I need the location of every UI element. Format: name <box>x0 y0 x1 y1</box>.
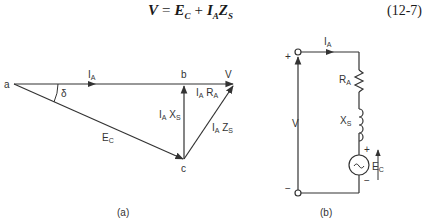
terminal-negative <box>295 190 301 196</box>
equivalent-circuit: IA RA XS EC V + − + − (b) <box>285 36 384 218</box>
diagram-canvas: a b c V δ IA EC IA XS IA RA IA ZS (a) <box>0 0 432 222</box>
terminal-plus-label: + <box>285 51 291 62</box>
point-c-label: c <box>181 163 186 174</box>
iara-label: IA RA <box>196 87 218 99</box>
resistor-label: RA <box>339 74 351 86</box>
point-a-label: a <box>4 79 10 90</box>
reactance-label: XS <box>340 115 352 127</box>
voltage-label: V <box>292 118 299 129</box>
point-b-label: b <box>181 69 187 80</box>
iazs-label: IA ZS <box>212 122 233 134</box>
caption-b: (b) <box>320 207 332 218</box>
caption-a: (a) <box>117 207 129 218</box>
source-plus-label: + <box>364 144 370 155</box>
phasor-diagram: a b c V δ IA EC IA XS IA RA IA ZS (a) <box>4 69 233 218</box>
ac-source-icon <box>349 155 369 175</box>
delta-arc <box>54 84 58 102</box>
source-label: EC <box>372 161 384 173</box>
terminal-minus-label: − <box>285 183 291 194</box>
sine-wave-icon <box>354 164 364 168</box>
source-minus-label: − <box>364 175 370 186</box>
point-v-label: V <box>225 69 232 80</box>
terminal-positive <box>295 49 301 55</box>
resistor-icon <box>355 70 363 92</box>
iaxs-label: IA XS <box>159 109 181 121</box>
ec-label: EC <box>102 132 114 144</box>
ia-label: IA <box>88 69 96 81</box>
ec-vector <box>14 84 183 159</box>
ia-arrow-icon <box>88 81 96 87</box>
current-arrow-icon <box>326 49 334 55</box>
delta-label: δ <box>61 88 67 99</box>
circuit-ia-label: IA <box>324 36 332 48</box>
